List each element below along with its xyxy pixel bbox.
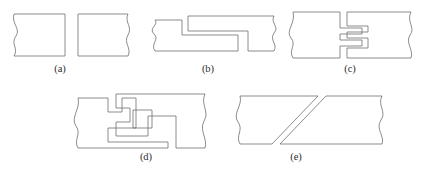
panel-caption-e: (e) (290, 151, 302, 163)
panel-caption-b: (b) (202, 63, 215, 75)
panel-caption-c: (c) (344, 63, 356, 75)
joint-types-figure: (a) (b) (c) (d) (e) (0, 0, 426, 172)
panel-caption-a: (a) (54, 63, 66, 75)
panel-caption-d: (d) (140, 151, 153, 163)
